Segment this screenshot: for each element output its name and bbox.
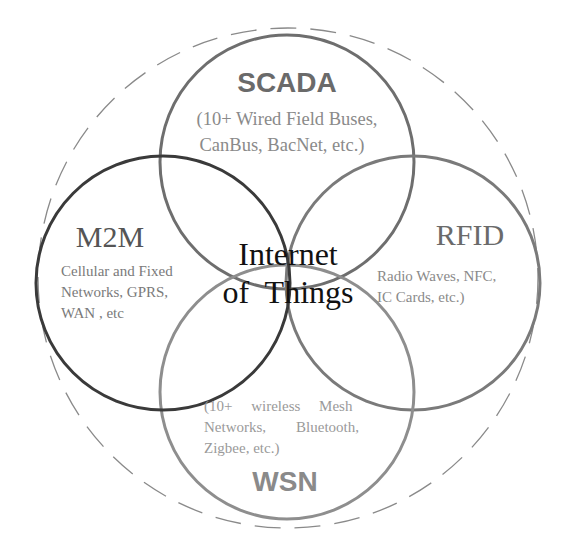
m2m-title: M2M xyxy=(76,220,144,253)
wsn-desc-line3: Zigbee, etc.) xyxy=(204,440,279,457)
rfid-desc-line1: Radio Waves, NFC, xyxy=(377,268,496,284)
m2m-desc-line2: Networks, GPRS, xyxy=(61,284,168,300)
center-label-line1: Internet xyxy=(238,236,338,272)
scada-desc-line2: CanBus, BacNet, etc.) xyxy=(200,135,365,156)
iot-venn-diagram: SCADA (10+ Wired Field Buses, CanBus, Ba… xyxy=(0,0,570,551)
rfid-title: RFID xyxy=(436,218,504,251)
m2m-desc-line3: WAN , etc xyxy=(61,305,124,321)
center-label-line2: of Things xyxy=(223,274,354,310)
rfid-desc-line2: IC Cards, etc.) xyxy=(377,289,464,306)
wsn-title: WSN xyxy=(252,466,317,497)
wsn-desc-line1: (10+ wireless Mesh xyxy=(204,398,353,415)
m2m-desc-line1: Cellular and Fixed xyxy=(61,263,173,279)
scada-title: SCADA xyxy=(237,67,337,98)
wsn-desc-line2: Networks, Bluetooth, xyxy=(204,419,359,435)
scada-desc-line1: (10+ Wired Field Buses, xyxy=(197,109,378,130)
